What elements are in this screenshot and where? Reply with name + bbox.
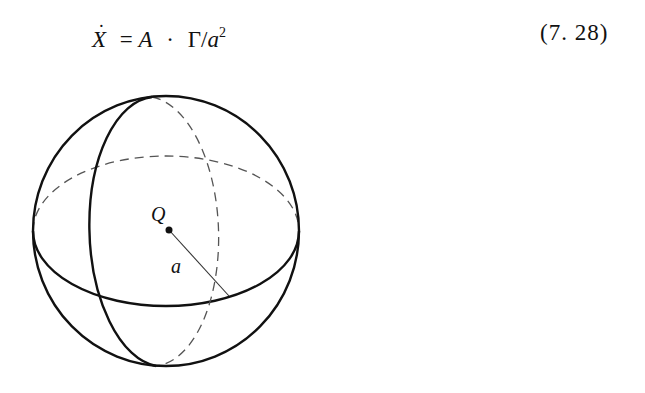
radius-label: a [171,255,181,278]
equator-back-dashed [33,156,299,231]
meridian-front [89,97,156,366]
meridian-back-dashed [152,97,219,366]
equator-front [33,231,299,306]
center-point [166,227,173,234]
center-label: Q [151,203,165,226]
sphere-figure [0,0,645,393]
